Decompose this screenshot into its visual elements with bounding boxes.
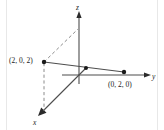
y-axis-label: y [152, 73, 155, 81]
z-axis-label: z [76, 4, 79, 12]
point-0-2-0-label: (0, 2, 0) [108, 81, 132, 89]
dashed-projection-to-z-axis [44, 29, 78, 62]
coordinate-axes-figure: z y x (2, 0, 2) (0, 2, 0) [0, 0, 164, 130]
x-axis-label: x [33, 119, 36, 127]
point-0-2-0-marker [122, 70, 126, 74]
point-2-0-2-label: (2, 0, 2) [9, 57, 33, 65]
point-2-0-2-marker [42, 60, 46, 64]
y-axis-arrowhead [144, 72, 151, 77]
z-axis-arrowhead [76, 11, 81, 18]
point-midpoint-marker [84, 66, 88, 70]
axes-drawing [0, 0, 164, 130]
